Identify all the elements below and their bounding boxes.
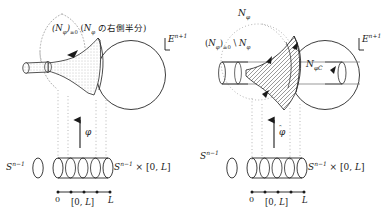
right-cylinder-label: Sn−1 × [0, L]	[308, 161, 364, 172]
right-phi-hat-label: ̂φ	[279, 128, 285, 137]
left-cylinder	[53, 158, 113, 178]
right-ambient-label: En+1	[362, 33, 381, 44]
right-sphere-label: Sn−1	[200, 150, 219, 161]
left-sphere-label: Sn−1	[6, 161, 25, 172]
left-interval-start-label: 0	[55, 196, 60, 204]
left-nphi-nonneg-label: (Nφ)≥0 (Nφ の右側半分)	[52, 24, 146, 35]
right-nphi-label: Nφ	[238, 9, 250, 20]
right-collar-label: NφC	[306, 60, 323, 71]
right-cylinder	[247, 158, 307, 178]
left-interval-center-label: [0, L]	[71, 198, 94, 207]
left-phi-label: φ	[85, 128, 91, 137]
left-funnel-horn	[23, 38, 103, 95]
right-sphere-circle	[227, 158, 237, 178]
right-interval-center-label: [0, L]	[265, 198, 288, 207]
left-projection-guides	[58, 90, 106, 160]
left-ambient-label: En+1	[168, 33, 187, 44]
left-interval-axis	[57, 191, 112, 194]
right-hatched-funnel	[246, 36, 301, 110]
figure-root: (Nφ)≥0 (Nφ の右側半分) En+1 φ Sn−1 Sn−1 × [0,…	[0, 0, 389, 216]
right-set-difference-label: (Nφ)≥0 \ Nφ	[205, 39, 250, 50]
right-projection-guides	[252, 98, 300, 160]
left-cylinder-label: Sn−1 × [0, L]	[114, 161, 170, 172]
right-interval-start-label: 0	[249, 196, 254, 204]
right-ambient-ball	[291, 41, 360, 110]
right-interval-end-label: L	[302, 196, 308, 205]
right-collar-cylinder	[325, 62, 346, 84]
left-sphere-circle	[33, 158, 43, 178]
left-interval-end-label: L	[108, 196, 114, 205]
left-ambient-ball	[97, 41, 166, 110]
right-interval-axis	[251, 191, 306, 194]
